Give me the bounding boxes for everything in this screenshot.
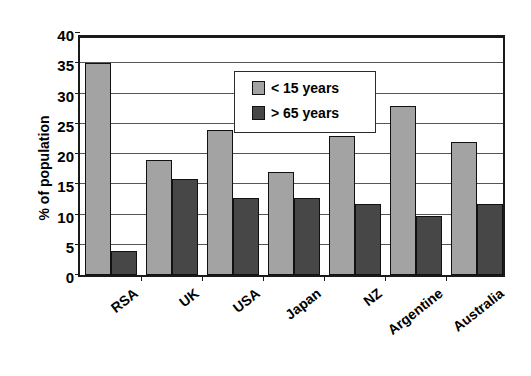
bar [329,136,355,275]
y-axis-tick-labels: 0510152025303540 [40,28,74,284]
y-tickmark [75,274,80,275]
bar [294,198,320,275]
bar [207,130,233,275]
bar [111,251,137,275]
y-tick-label: 0 [40,270,74,285]
y-tickmark [75,32,80,33]
y-tick-label: 35 [40,58,74,73]
y-tick-label: 15 [40,179,74,194]
x-axis-category-labels: RSAUKUSAJapanNZArgentineAustralia [78,281,505,376]
bar [355,204,381,275]
bar [233,198,259,275]
bar [85,63,111,275]
bar [268,172,294,275]
legend-label: < 15 years [271,81,339,95]
y-tick-label: 30 [40,88,74,103]
x-tick-label: RSA [4,285,140,376]
gridline [80,62,503,63]
legend-label: > 65 years [271,106,339,120]
legend-item: > 65 years [252,106,339,120]
bar [451,142,477,275]
legend-swatch-icon [252,106,265,120]
y-tick-label: 10 [40,209,74,224]
y-tick-label: 25 [40,118,74,133]
bar [416,216,442,275]
gridline [80,153,503,154]
bar [390,106,416,275]
bar [172,179,198,275]
bar [477,204,503,275]
legend: < 15 years> 65 years [234,71,376,133]
legend-swatch-icon [252,81,265,95]
y-tickmark [75,123,80,124]
y-tickmark [75,62,80,63]
y-tickmark [75,93,80,94]
y-tick-label: 40 [40,28,74,43]
bar-chart: % of population 0510152025303540 < 15 ye… [0,0,531,376]
y-tick-label: 5 [40,239,74,254]
y-tickmark [75,153,80,154]
y-tickmark [75,183,80,184]
bar [146,160,172,275]
legend-item: < 15 years [252,81,339,95]
y-tick-label: 20 [40,149,74,164]
y-tickmark [75,214,80,215]
y-tickmark [75,244,80,245]
